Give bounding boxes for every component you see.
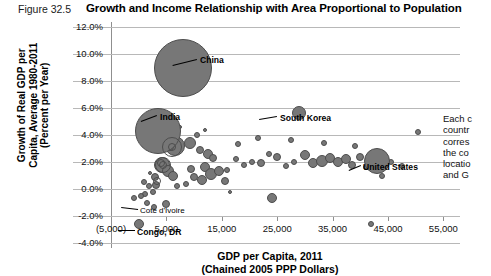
data-bubble (257, 159, 265, 167)
gridline (73, 189, 460, 190)
data-bubble (228, 190, 232, 194)
x-axis-tick-mark (277, 217, 278, 221)
data-bubble (190, 173, 198, 181)
data-bubble (321, 140, 327, 146)
data-bubble (266, 151, 272, 157)
gridline (73, 216, 460, 217)
x-axis-tick-mark (166, 217, 167, 221)
data-bubble (241, 162, 247, 168)
data-bubble (214, 166, 224, 176)
data-bubble (141, 179, 147, 185)
annotation-label-congo-dr: Congo, DR (137, 227, 181, 237)
y-axis-tick-label: -2.0% (23, 210, 103, 221)
data-bubble (249, 159, 255, 165)
y-axis-tick-label: 10.0% (23, 48, 103, 59)
data-bubble (148, 171, 152, 175)
data-bubble (352, 143, 358, 149)
data-bubble (291, 159, 297, 165)
y-axis-tick-label: 4.0% (23, 129, 103, 140)
y-axis-tick-label: -4.0% (23, 237, 103, 248)
data-bubble (233, 156, 239, 162)
x-axis-tick-label: 15,000 (207, 223, 236, 234)
x-axis-title: GDP per Capita, 2011 (Chained 2005 PPP D… (110, 250, 430, 275)
data-bubble (203, 128, 207, 132)
x-axis-tick-label: (5,000) (96, 223, 126, 234)
data-bubble (194, 132, 200, 138)
data-bubble-outline (153, 177, 161, 185)
data-bubble (150, 189, 156, 195)
data-bubble (144, 200, 150, 206)
data-bubble (273, 153, 281, 161)
y-axis-tick-label: 8.0% (23, 75, 103, 86)
figure-title: Growth and Income Relationship with Area… (86, 2, 462, 14)
x-axis-tick-label: 35,000 (318, 223, 347, 234)
x-axis-tick-label: 45,000 (373, 223, 402, 234)
x-axis-title-line2: (Chained 2005 PPP Dollars) (202, 263, 339, 275)
data-bubble (221, 177, 229, 185)
gridline (73, 27, 460, 28)
side-note-line-6: and G (443, 169, 491, 180)
gridline (73, 243, 460, 244)
data-bubble (267, 193, 277, 203)
side-note-line-2: countr (443, 124, 491, 135)
gridline (73, 108, 460, 109)
data-bubble (168, 171, 178, 181)
x-axis-tick-label: 55,000 (429, 223, 458, 234)
data-bubble (235, 141, 241, 147)
y-axis-tick-label: 6.0% (23, 102, 103, 113)
data-bubble (138, 193, 144, 199)
data-bubble-outline (159, 161, 167, 169)
data-bubble (209, 154, 217, 162)
annotation-label-india: India (160, 112, 180, 122)
y-axis-tick-label: 2.0% (23, 156, 103, 167)
side-note-line-5: locatio (443, 158, 491, 169)
data-bubble (187, 165, 195, 173)
annotation-label-united-states: United States (363, 162, 418, 172)
side-note-line-4: the co (443, 147, 491, 158)
annotation-leader-cote-divoire (121, 207, 138, 210)
side-note: Each c countr corres the co locatio and … (443, 113, 491, 181)
data-bubble (224, 167, 230, 173)
data-bubble (197, 175, 207, 185)
data-bubble (255, 135, 261, 141)
data-bubble (184, 137, 196, 149)
figure-container: Figure 32.5 Growth and Income Relationsh… (0, 0, 491, 276)
gridline (73, 81, 460, 82)
x-axis-tick-mark (333, 217, 334, 221)
figure-number: Figure 32.5 (18, 3, 71, 15)
side-note-line-1: Each c (443, 113, 491, 124)
data-bubble-china (154, 39, 212, 97)
annotation-leader-congo-dr (118, 230, 135, 231)
data-bubble (283, 163, 289, 169)
data-bubble (183, 181, 189, 187)
x-axis-tick-mark (222, 217, 223, 221)
x-axis-tick-mark (111, 217, 112, 221)
annotation-label-china: China (200, 55, 224, 65)
data-bubble-cote-d-ivoire (131, 195, 137, 201)
gridline (73, 135, 460, 136)
side-note-line-3: corres (443, 136, 491, 147)
x-axis-tick-label: 25,000 (263, 223, 292, 234)
x-axis-tick-mark (388, 217, 389, 221)
plot-area: -4.0%-2.0%0.0%2.0%4.0%6.0%8.0%10.0%12.0%… (111, 27, 460, 243)
annotation-label-cote-divoire: Cote d'Ivoire (140, 206, 185, 215)
annotation-leader-south-korea (259, 116, 277, 120)
annotation-label-south-korea: South Korea (280, 113, 331, 123)
gridline (73, 54, 460, 55)
y-axis-tick-label: 12.0% (23, 21, 103, 32)
x-axis-title-line1: GDP per Capita, 2011 (217, 250, 322, 262)
x-axis-tick-mark (443, 217, 444, 221)
y-axis-tick-label: 0.0% (23, 183, 103, 194)
data-bubble (288, 137, 294, 143)
